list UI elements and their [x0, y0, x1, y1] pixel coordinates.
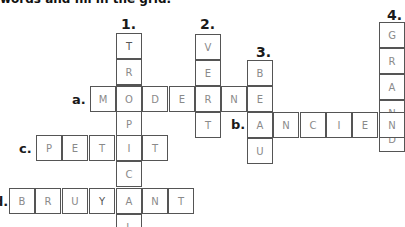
- grid-cell-d-2[interactable]: R: [35, 188, 61, 214]
- down-clue-4-number: 4.: [387, 8, 402, 22]
- grid-cell-4-1[interactable]: G: [379, 22, 405, 48]
- grid-cell-a-5[interactable]: R: [195, 86, 221, 112]
- grid-cell-a-1[interactable]: M: [90, 86, 116, 112]
- grid-cell-c-5[interactable]: T: [142, 135, 168, 161]
- grid-cell-b-3[interactable]: C: [300, 112, 326, 138]
- grid-cell-2-1[interactable]: V: [195, 34, 221, 60]
- grid-cell-c-2[interactable]: E: [62, 135, 88, 161]
- grid-cell-2-4[interactable]: T: [195, 112, 221, 138]
- grid-cell-b-4[interactable]: I: [326, 112, 352, 138]
- grid-cell-d-3[interactable]: U: [62, 188, 88, 214]
- across-clue-a-label: a.: [72, 93, 86, 106]
- down-clue-2-number: 2.: [200, 17, 215, 31]
- grid-cell-a-2[interactable]: O: [116, 86, 142, 112]
- grid-cell-1-2[interactable]: R: [116, 59, 142, 85]
- grid-cell-c-4[interactable]: I: [116, 135, 142, 161]
- grid-cell-d-1[interactable]: B: [9, 188, 35, 214]
- down-clue-1-number: 1.: [121, 17, 136, 31]
- instruction-text: words and fill in the grid.: [0, 0, 171, 6]
- down-clue-3-number: 3.: [256, 45, 271, 59]
- across-clue-b-label: b.: [231, 118, 245, 131]
- grid-cell-2-2[interactable]: E: [195, 60, 221, 86]
- grid-cell-d-4[interactable]: Y: [89, 188, 115, 214]
- grid-cell-1-8[interactable]: L: [116, 214, 142, 227]
- grid-cell-a-6[interactable]: N: [221, 86, 247, 112]
- grid-cell-d-7[interactable]: T: [168, 188, 194, 214]
- grid-cell-4-2[interactable]: R: [379, 48, 405, 74]
- grid-cell-d-5[interactable]: A: [116, 188, 142, 214]
- grid-cell-1-6[interactable]: C: [116, 161, 142, 187]
- grid-cell-c-3[interactable]: T: [89, 135, 115, 161]
- grid-cell-3-4[interactable]: U: [247, 138, 273, 164]
- grid-cell-b-5[interactable]: E: [352, 112, 378, 138]
- grid-cell-a-4[interactable]: E: [169, 86, 195, 112]
- grid-cell-1-4[interactable]: P: [116, 111, 142, 137]
- grid-cell-a-7[interactable]: E: [247, 86, 273, 112]
- grid-cell-b-2[interactable]: N: [273, 112, 299, 138]
- grid-cell-1-1[interactable]: T: [116, 33, 142, 59]
- grid-cell-a-3[interactable]: D: [142, 86, 168, 112]
- grid-cell-d-6[interactable]: N: [142, 188, 168, 214]
- grid-cell-4-3[interactable]: A: [379, 74, 405, 100]
- across-clue-c-label: c.: [19, 142, 32, 155]
- grid-cell-3-1[interactable]: B: [247, 60, 273, 86]
- grid-cell-b-1[interactable]: A: [247, 112, 273, 138]
- across-clue-d-label: d.: [0, 195, 8, 208]
- grid-cell-b-6[interactable]: N: [379, 112, 405, 138]
- grid-cell-c-1[interactable]: P: [36, 135, 62, 161]
